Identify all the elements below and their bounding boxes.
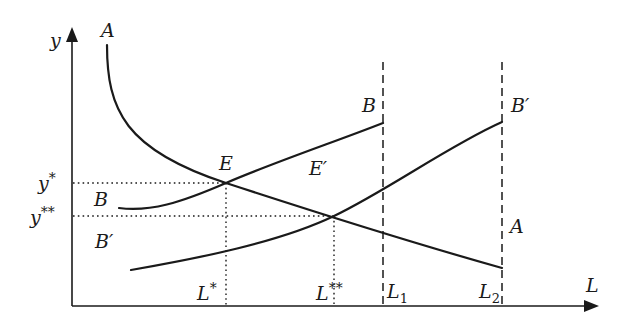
- labor-allocation-diagram: y L A A B B B′ B′ E E′ y* y** L* L** L1 …: [0, 0, 626, 325]
- curve-B-label-right: B: [361, 94, 376, 116]
- y-axis-arrow-icon: [66, 27, 78, 42]
- curve-A-label-right: A: [508, 215, 524, 237]
- y-star-label: y*: [37, 170, 56, 194]
- curve-B-prime-label-left: B′: [94, 230, 114, 252]
- L-double-star-label: L**: [315, 280, 343, 304]
- y-axis-label: y: [49, 29, 61, 51]
- curve-B-prime-label-right: B′: [510, 94, 530, 116]
- y-double-star-label: y**: [29, 204, 55, 228]
- curve-B-prime: [131, 122, 502, 270]
- point-E-label: E: [218, 152, 233, 174]
- point-E-prime-label: E′: [308, 157, 328, 179]
- curve-B-label-left: B: [93, 188, 108, 210]
- x-axis-arrow-icon: [584, 300, 599, 312]
- x-axis-label: L: [585, 274, 599, 296]
- curve-B: [119, 123, 383, 209]
- L1-label: L1: [386, 280, 408, 306]
- curve-A: [107, 45, 502, 268]
- L-star-label: L*: [196, 280, 217, 304]
- curve-A-label-top: A: [99, 19, 115, 41]
- L2-label: L2: [478, 280, 500, 306]
